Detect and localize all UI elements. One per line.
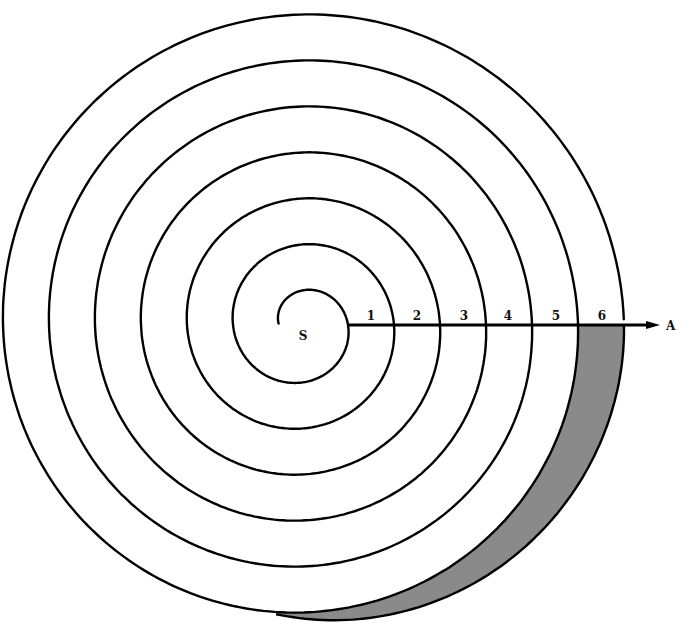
spiral-diagram: S A 1 2 3 4 5 6 [0, 0, 692, 640]
arrow-head-icon [646, 321, 660, 329]
segment-label-4: 4 [504, 309, 512, 323]
segment-label-6: 6 [598, 309, 606, 323]
segment-label-3: 3 [460, 309, 468, 323]
segment-label-2: 2 [413, 309, 421, 323]
segment-label-1: 1 [367, 309, 375, 323]
label-a: A [665, 319, 676, 333]
label-s: S [299, 329, 308, 343]
shaded-region [276, 325, 624, 620]
segment-label-5: 5 [552, 309, 560, 323]
